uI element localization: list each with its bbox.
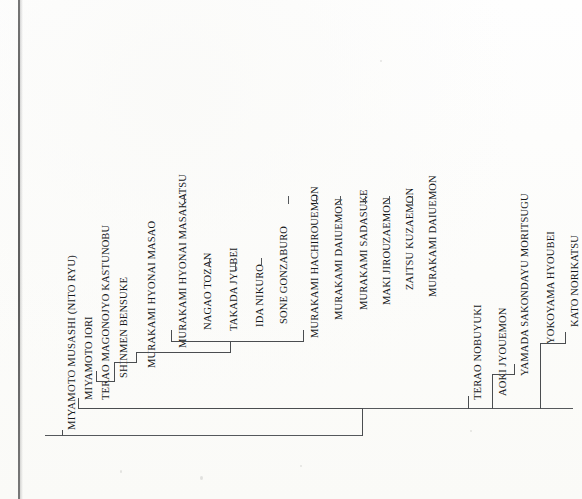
connector-dash-sone-hachirouemon — [288, 196, 289, 204]
connector-dash-masakatsu-nagao — [184, 196, 185, 204]
trunk-riser — [362, 408, 363, 436]
connector-yokoyama-drop — [540, 343, 541, 409]
connector-shinmen-bracket — [114, 362, 136, 363]
name-label-terao-magonojyo: TERAO MAGONOJYO KASTUNOBU — [101, 225, 112, 400]
connector-inner-group-riser — [230, 341, 231, 353]
name-label-miyamoto-iori: MIYAMOTO IORI — [84, 316, 95, 400]
connector-yamada-riser — [514, 364, 515, 375]
scan-speck — [300, 465, 302, 467]
connector-musashi-stub — [62, 430, 63, 436]
name-label-ida-nikuro: IDA NIKURO — [255, 264, 266, 327]
connector-hyonai-masao-riser — [136, 352, 137, 363]
scan-speck — [470, 430, 472, 432]
name-label-kato-norikatsu: KATO NORIKATSU — [570, 235, 581, 327]
connector-terao-nobuyuki-stub — [468, 396, 469, 409]
name-label-murakami-daiuemon-2: MURAKAMI DAIUEMON — [428, 175, 439, 297]
name-label-yamada-sakondayu-moritsugu: YAMADA SAKONDAYU MORITSUGU — [520, 193, 531, 376]
name-label-terao-nobuyuki: TERAO NOBUYUKI — [473, 304, 484, 400]
connector-hachirouemon-riser — [303, 330, 304, 342]
connector-dash-maki-zaitsu — [389, 196, 390, 204]
connector-dash-zaitsu-daiuemon2 — [412, 196, 413, 204]
scan-speck — [380, 60, 382, 62]
trunk-line-main — [45, 435, 363, 436]
connector-iori-horizontal — [78, 408, 363, 409]
scan-speck — [120, 470, 122, 473]
connector-dash-nagao-takada — [209, 258, 210, 266]
name-label-murakami-hachirouemon: MURAKAMI HACHIROUEMON — [310, 186, 321, 338]
name-label-yokoyama-hyoubei: YOKOYAMA HYOUBEI — [546, 231, 557, 344]
name-label-murakami-sadasuke: MURAKAMI SADASUKE — [359, 189, 370, 310]
connector-yokoyama-bracket — [540, 343, 566, 344]
connector-aoki-jyouemon-stub — [492, 396, 493, 409]
name-label-takada-jyubei: TAKADA JYUBEI — [229, 247, 240, 331]
connector-dash-daiuemon1-sadasuke — [340, 196, 341, 204]
connector-dash-takada-ida — [235, 262, 236, 270]
paper-background — [0, 0, 582, 499]
name-label-murakami-daiuemon-1: MURAKAMI DAIUEMON — [334, 198, 345, 320]
name-label-zaitsu-kuzaemon: ZAITSU KUZAEMON — [405, 188, 416, 290]
connector-terao-magonojyo-riser — [96, 371, 97, 382]
lineage-chart-page: MIYAMOTO MUSASHI (NITO RYU) MIYAMOTO IOR… — [0, 0, 582, 499]
binding-edge-shadow — [20, 0, 23, 499]
connector-aoki-bracket-riser — [492, 374, 493, 396]
connector-dash-sadasuke-maki — [365, 196, 366, 204]
connector-terao-magonojyo-bracket — [96, 381, 115, 382]
connector-hyonai-masao-bracket — [136, 352, 231, 353]
name-label-murakami-hyonai-masao: MURAKAMI HYONAI MASAO — [147, 221, 158, 368]
connector-iori-riser — [78, 398, 79, 409]
name-label-miyamoto-musashi: MIYAMOTO MUSASHI (NITO RYU) — [66, 255, 77, 430]
connector-dash-ida-sone — [261, 258, 262, 266]
name-label-maki-jirouzaemon: MAKI JIROUZAEMON — [382, 197, 393, 305]
name-label-sone-gonzaburo: SONE GONZABURO — [279, 226, 290, 324]
connector-aoki-yamada-bracket — [492, 374, 514, 375]
connector-dash-hachirouemon-daiuemon1 — [316, 196, 317, 204]
connector-inner-sibling-bracket — [171, 341, 304, 342]
connector-shinmen-drop — [114, 362, 115, 382]
scan-speck — [200, 476, 203, 480]
connector-masakatsu-riser — [171, 330, 172, 342]
connector-kato-riser — [565, 332, 566, 344]
name-label-aoki-jyouemon: AOKI JYOUEMON — [498, 307, 509, 396]
